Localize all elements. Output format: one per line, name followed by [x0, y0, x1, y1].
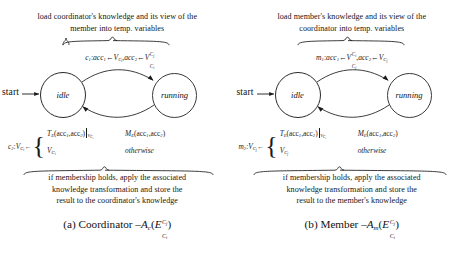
case1-cond-args-mid: ,acc: [149, 129, 161, 138]
case-row-2: VCi otherwise: [47, 146, 165, 164]
caption-arg-supsub: j: [394, 221, 395, 226]
caption-arg: E: [382, 218, 389, 230]
assign1-var: acc: [326, 53, 337, 62]
case-2-expression: VCj: [280, 146, 358, 155]
start-label-member: start: [237, 86, 254, 97]
state-idle-label: idle: [57, 90, 70, 100]
back-lhs: m2:VCj←: [239, 142, 266, 151]
panel-coordinator: load coordinator's knowledge and its vie…: [0, 0, 235, 258]
case1-args-mid: ,acc: [69, 129, 81, 138]
caption-fn: A: [141, 218, 148, 230]
assign1-value-subsub: j: [355, 66, 356, 70]
transition-label-back-coordinator: c2:VCi← { TE(acc1,acc2)VCi ME(acc1,acc2)…: [8, 128, 165, 164]
caption-arg: E: [155, 218, 162, 230]
case-1-expression: TE(acc1,acc2)VCj: [280, 128, 358, 139]
case1-restrict-subsub: j: [325, 137, 326, 140]
case1-cond-args-mid: ,acc: [381, 129, 393, 138]
state-running-coordinator[interactable]: running: [152, 73, 197, 118]
state-running-label: running: [395, 90, 422, 100]
assign1-var: acc: [93, 53, 104, 62]
cases-block: TE(acc1,acc2)VCj ME(acc1,acc2) VCj other…: [278, 128, 398, 164]
case1-args-end: ): [315, 129, 317, 138]
case1-args: (acc: [287, 129, 299, 138]
case-2-condition: otherwise: [358, 146, 387, 155]
caption-close-paren: ): [167, 218, 171, 230]
case-1-expression: TE(acc1,acc2)VCi: [47, 128, 125, 139]
case1-cond-args: (acc: [134, 129, 146, 138]
figure-container: load coordinator's knowledge and its vie…: [0, 0, 469, 258]
bottom-annotation-line-1: if membership holds, apply the associate…: [235, 172, 469, 184]
case1-cond-args-end: ): [163, 129, 165, 138]
bottom-annotation-line-3: result to the coordinator's knowledge: [0, 195, 235, 207]
bottom-annotation-line-1: if membership holds, apply the associate…: [0, 172, 235, 184]
case-row-1: TE(acc1,acc2)VCi ME(acc1,acc2): [47, 128, 165, 146]
assign2-value-subsub: j: [386, 59, 387, 63]
panel-member: load member's knowledge and its view of …: [235, 0, 469, 258]
transition-label-forward-coordinator: c1:acc1←VCi,acc2←VCjCi: [0, 53, 235, 62]
case1-args: (acc: [54, 129, 66, 138]
assign2-var: acc: [358, 53, 369, 62]
state-idle-label: idle: [291, 90, 304, 100]
case1-args-end: ): [83, 129, 85, 138]
bottom-annotation-line-2: knowledge transformation and store the: [0, 184, 235, 196]
case-2-condition: otherwise: [125, 146, 154, 155]
bottom-annotation-member: if membership holds, apply the associate…: [235, 172, 469, 207]
case1-cond-args: (acc: [367, 129, 379, 138]
case1-args-mid: ,acc: [301, 129, 313, 138]
cases-block: TE(acc1,acc2)VCi ME(acc1,acc2) VCi other…: [45, 128, 165, 164]
transition-label-forward-member: m1:acc1←VCiCj,acc2←VCj: [235, 53, 469, 62]
bottom-annotation-coordinator: if membership holds, apply the associate…: [0, 172, 235, 207]
state-running-label: running: [161, 90, 188, 100]
assign2-value-supsub: j: [153, 54, 154, 58]
start-label-coordinator: start: [2, 86, 19, 97]
case1-restrict-subsub: i: [93, 137, 94, 140]
assign2-value-subsub: i: [153, 66, 154, 70]
assign1-value-supsub: i: [355, 54, 356, 58]
state-running-member[interactable]: running: [387, 73, 432, 118]
caption-coordinator: (a) Coordinator –Ac(ECjCi): [0, 218, 235, 230]
caption-prefix: (a) Coordinator: [63, 218, 132, 230]
state-idle-member[interactable]: idle: [275, 72, 321, 118]
caption-arg-supsub: j: [166, 221, 167, 226]
transition-label-back-member: m2:VCj← { TE(acc1,acc2)VCj ME(acc1,acc2)…: [239, 128, 398, 164]
case-row-1: TE(acc1,acc2)VCj ME(acc1,acc2): [280, 128, 398, 146]
caption-arg-subsub: i: [394, 235, 395, 240]
case2-value-subsub: i: [55, 152, 56, 156]
case-1-condition: ME(acc1,acc2): [125, 129, 165, 138]
assign2-var: acc: [124, 53, 135, 62]
back-lhs: c2:VCi←: [8, 142, 33, 151]
case-row-2: VCj otherwise: [280, 146, 398, 164]
bottom-annotation-line-2: knowledge transformation and store the: [235, 184, 469, 196]
caption-close-paren: ): [395, 218, 399, 230]
caption-member: (b) Member –Am(ECjCi): [235, 218, 469, 230]
case1-cond-args-end: ): [395, 129, 397, 138]
caption-fn: A: [367, 218, 374, 230]
bottom-annotation-line-3: result to the member's knowledge: [235, 195, 469, 207]
assign1-value-base: V: [347, 53, 352, 62]
case-2-expression: VCi: [47, 146, 125, 155]
caption-arg-subsub: i: [166, 235, 167, 240]
case2-value-subsub: j: [287, 152, 288, 156]
state-idle-coordinator[interactable]: idle: [40, 72, 86, 118]
case-1-condition: ME(acc1,acc2): [358, 129, 398, 138]
caption-prefix: (b) Member: [305, 218, 359, 230]
assign2-value-base: V: [145, 53, 150, 62]
